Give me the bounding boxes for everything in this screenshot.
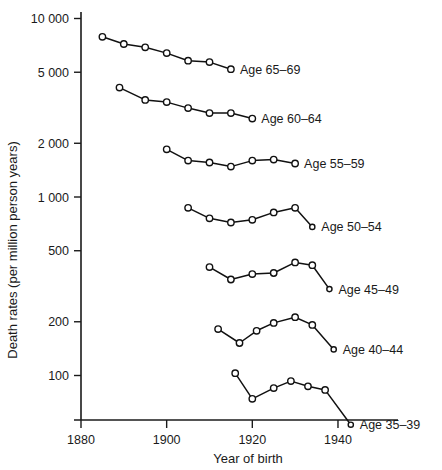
x-tick-label-1940: 1940 [324,433,352,447]
data-point [142,97,148,103]
data-point [309,262,315,268]
series-age-55-59 [164,146,299,170]
data-point [164,99,170,105]
x-tick-label-1880: 1880 [67,433,95,447]
y-axis-tick-labels: 1002005001 0002 0005 00010 000 [31,12,69,383]
series-age-35-39 [232,370,353,427]
data-point [185,205,191,211]
data-point [249,217,255,223]
data-point [142,44,148,50]
death-rates-line-chart: 1002005001 0002 0005 00010 000 188019001… [0,0,442,470]
data-point [228,66,234,72]
series-label-age-60-64: Age 60–64 [261,112,322,126]
data-point [206,215,212,221]
series-age-40-44 [215,314,336,352]
data-point [236,340,242,346]
data-point [288,378,294,384]
series-age-60-64 [116,84,255,121]
x-axis-tick-labels: 1880190019201940 [67,433,352,447]
y-tick-label-2000: 2 000 [38,137,69,151]
data-point [206,264,212,270]
data-point [228,276,234,282]
series-age-65-69 [99,34,234,73]
data-series-layer [99,34,353,428]
data-point [309,322,315,328]
y-tick-label-10000: 10 000 [31,12,69,26]
data-point [121,41,127,47]
data-point [206,159,212,165]
data-point [185,157,191,163]
y-tick-label-500: 500 [48,244,69,258]
data-point [185,58,191,64]
series-label-age-40-44: Age 40–44 [343,343,404,357]
series-age-45-49 [206,259,332,292]
y-axis-title: Death rates (per million person years) [5,141,20,358]
data-point [305,383,311,389]
data-point [228,163,234,169]
data-point [206,59,212,65]
y-tick-label-100: 100 [48,369,69,383]
data-point [232,370,238,376]
data-point [331,347,336,352]
data-point [249,115,255,121]
x-axis-ticks [81,420,338,428]
data-point [253,328,259,334]
data-point [99,34,105,40]
x-tick-label-1920: 1920 [238,433,266,447]
data-point [271,209,277,215]
series-label-age-65-69: Age 65–69 [240,63,301,77]
data-point [322,387,328,393]
data-point [116,84,122,90]
data-point [228,110,234,116]
data-point [327,287,332,292]
x-axis-title: Year of birth [213,451,283,466]
data-point [185,105,191,111]
y-axis-ticks [74,19,81,376]
y-tick-label-5000: 5 000 [38,66,69,80]
data-point [292,314,298,320]
y-tick-label-200: 200 [48,315,69,329]
data-point [271,320,277,326]
data-point [206,110,212,116]
series-label-layer: Age 65–69Age 60–64Age 55–59Age 50–54Age … [240,63,420,433]
data-point [292,160,298,166]
data-point [271,385,277,391]
chart-container: 1002005001 0002 0005 00010 000 188019001… [0,0,442,470]
y-axis: 1002005001 0002 0005 00010 000 [31,12,81,420]
data-point [271,156,277,162]
data-point [310,224,315,229]
series-label-age-45-49: Age 45–49 [338,283,399,297]
data-point [164,50,170,56]
series-label-age-50-54: Age 50–54 [321,220,382,234]
data-point [348,422,353,427]
data-point [292,205,298,211]
data-point [249,396,255,402]
data-point [249,271,255,277]
series-age-50-54 [185,205,315,230]
data-point [164,146,170,152]
x-tick-label-1900: 1900 [153,433,181,447]
data-point [228,219,234,225]
data-point [215,326,221,332]
series-label-age-35-39: Age 35–39 [360,418,421,432]
y-tick-label-1000: 1 000 [38,191,69,205]
data-point [292,259,298,265]
data-point [271,270,277,276]
series-label-age-55-59: Age 55–59 [304,157,365,171]
data-point [249,157,255,163]
